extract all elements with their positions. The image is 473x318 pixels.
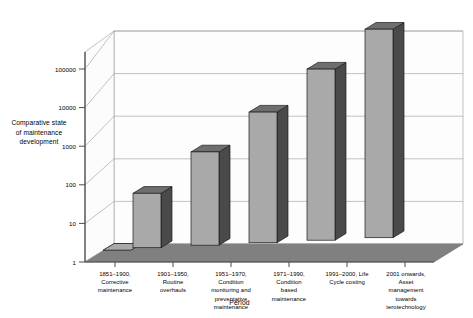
bar-side-face [161, 187, 172, 248]
bar-2001-onwards[interactable] [365, 23, 404, 238]
y-tick-label-1: 1 [40, 259, 76, 266]
x-category-label-2: 1901–1950, Routine overhauls [145, 270, 201, 295]
x-axis-title: Period [229, 299, 250, 306]
x-category-line: maintenance [87, 286, 143, 294]
x-axis-ticks [115, 262, 405, 267]
x-category-line: Cycle costing [318, 278, 376, 286]
bar-side-face [277, 105, 288, 242]
x-category-label-4: 1971–1990, Condition based maintenance [261, 270, 317, 303]
bar-front-face [249, 112, 277, 243]
x-category-line: Asset [377, 278, 435, 286]
x-category-line: Condition [261, 278, 317, 286]
x-axis-title-wrapper: Period [0, 299, 473, 306]
x-category-line: Routine [145, 278, 201, 286]
plot-left-wall [85, 31, 114, 262]
x-category-label-5: 1991–2000, Life Cycle costing [318, 270, 376, 286]
x-category-line: Corrective [87, 278, 143, 286]
bar-1991-2000[interactable] [307, 62, 346, 240]
x-category-label-1: 1851–1900, Corrective maintenance [87, 270, 143, 295]
bar-front-face [365, 29, 393, 238]
y-tick-label-100000: 100000 [40, 66, 76, 73]
x-category-line: 1901–1950, [145, 270, 201, 278]
x-category-line: 1851–1900, [87, 270, 143, 278]
y-tick-label-1000: 1000 [40, 143, 76, 150]
y-tick-label-10: 10 [40, 220, 76, 227]
x-category-line: 2001 onwards, [377, 270, 435, 278]
bar-1901-1950[interactable] [133, 187, 172, 248]
y-tick-label-100: 100 [40, 181, 76, 188]
x-category-line: Condition [203, 278, 259, 286]
x-category-line: overhauls [145, 286, 201, 294]
bar-1951-1970[interactable] [191, 145, 230, 245]
x-category-line: monitoring and [203, 286, 259, 294]
x-category-line: 1951–1970, [203, 270, 259, 278]
bar-front-face [191, 152, 219, 245]
x-category-line: 1971–1990, [261, 270, 317, 278]
y-tick-label-10000: 10000 [40, 104, 76, 111]
bar-front-face [307, 69, 335, 240]
bar-1971-1990[interactable] [249, 105, 288, 242]
bar-side-face [335, 62, 346, 240]
bar-side-face [393, 23, 404, 238]
chart-container: Comparative state of maintenance develop… [0, 0, 473, 318]
x-category-line: management [377, 286, 435, 294]
bar-side-face [219, 145, 230, 245]
y-axis-ticks [79, 69, 85, 262]
x-category-line: based [261, 286, 317, 294]
bar-front-face [133, 193, 161, 247]
x-category-line: 1991–2000, Life [318, 270, 376, 278]
